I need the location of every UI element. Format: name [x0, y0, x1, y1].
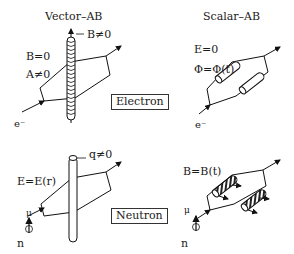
label-e-field-r: E=E(r) [17, 176, 56, 188]
label-e-zero: E=0 [194, 44, 218, 56]
scalar-electron-interferometer [199, 47, 280, 114]
label-b-inside: B≠0 [87, 29, 111, 41]
label-b-outside: B=0 [26, 51, 50, 63]
neutron-spin-icon [26, 218, 33, 233]
column-title-scalar-ab: Scalar–AB [203, 10, 260, 23]
label-b-field-t: B=B(t) [183, 166, 221, 178]
coil-icon [240, 188, 267, 212]
label-charge: q≠0 [89, 149, 112, 161]
column-title-vector-ab: Vector–AB [45, 10, 102, 23]
electron-row-label: Electron [111, 94, 169, 110]
label-a-outside: A≠0 [26, 69, 50, 81]
label-scalar-potential: Φ=Φ(t) [194, 64, 234, 76]
particle-label-electron-right: e⁻ [195, 119, 206, 131]
particle-label-electron-left: e⁻ [14, 118, 25, 130]
label-mu-right: μ [184, 204, 190, 216]
particle-label-neutron-right: n [181, 238, 188, 250]
vector-neutron-interferometer [26, 156, 122, 243]
particle-label-neutron-left: n [17, 238, 24, 250]
charged-rod-icon [69, 156, 77, 243]
drift-tube-icon [238, 71, 265, 95]
label-mu-left: μ [26, 207, 32, 219]
neutron-row-label: Neutron [111, 208, 168, 224]
solenoid-icon [67, 37, 75, 120]
